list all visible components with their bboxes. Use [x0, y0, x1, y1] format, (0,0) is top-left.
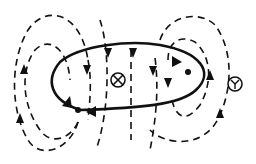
y-point-symbol: [228, 77, 242, 91]
field-line-right-outer: [150, 17, 229, 142]
wire-point-left: [75, 107, 81, 113]
into-page-symbol: [111, 73, 125, 87]
field-arrow-right-outer: [216, 108, 224, 118]
current-arrow-bottom: [86, 106, 96, 117]
current-arrow-top: [172, 56, 182, 67]
field-line-right-inner: [168, 39, 209, 116]
field-line-left-vertical: [96, 20, 107, 150]
field-line-left-inner: [25, 44, 78, 139]
magnetic-field-diagram: [0, 0, 256, 164]
wire-point-right: [185, 69, 191, 75]
field-arrow-right-up: [206, 70, 214, 80]
field-arrow-left-low: [16, 113, 24, 123]
field-arrow-center: [104, 48, 112, 58]
current-loop: [52, 43, 204, 110]
field-arrow-right-inner: [164, 78, 172, 88]
